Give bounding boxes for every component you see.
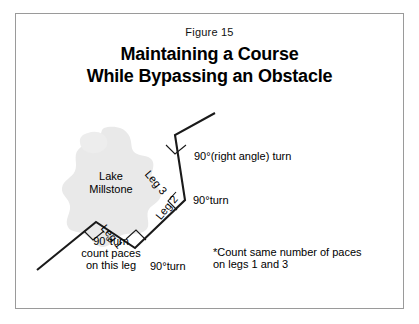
lake-shape-lobe bbox=[80, 132, 108, 153]
figure-container: Figure 15 Maintaining a Course While Byp… bbox=[0, 0, 419, 324]
lake-millstone-label: Lake Millstone bbox=[78, 170, 144, 196]
footnote-line-1: *Count same number of paces bbox=[213, 246, 362, 258]
turn-annotation-right: 90°turn bbox=[193, 194, 229, 207]
footnote-line-2: on legs 1 and 3 bbox=[213, 258, 288, 270]
turn-annotation-left-line-2: count paces bbox=[81, 247, 140, 259]
footnote-text: *Count same number of paces on legs 1 an… bbox=[213, 246, 373, 270]
turn-annotation-top: 90°(right angle) turn bbox=[194, 150, 291, 163]
turn-annotation-bottom: 90°turn bbox=[150, 260, 186, 273]
turn-annotation-left-line-3: on this leg bbox=[86, 259, 136, 271]
